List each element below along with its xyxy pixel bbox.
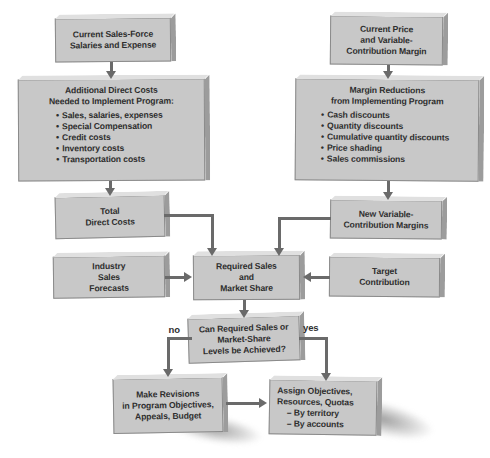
node-required-sales: Required Sales and Market Share (193, 255, 300, 301)
arrow-head (303, 272, 311, 282)
bullet-item: •Credit costs (56, 132, 204, 144)
node-margin-reductions: Margin Reductions from Implementing Prog… (295, 78, 480, 181)
node-can-required-sales: Can Required Sales or Market-Share Level… (187, 315, 300, 363)
arrow-stem (311, 276, 330, 279)
bullet-text: Transportation costs (62, 154, 145, 165)
arrow-head (274, 248, 284, 256)
bullet-icon: • (56, 154, 59, 165)
bullet-item: •Transportation costs (56, 154, 204, 166)
arrow-stem (164, 214, 214, 217)
node-label-line: Sales (98, 271, 120, 282)
node-assign-objectives: Assign Objectives, Resources, Quotas – B… (269, 379, 378, 436)
node-additional-direct-costs: Additional Direct Costs Needed to Implem… (18, 79, 206, 182)
bullet-text: Quantity discounts (327, 121, 403, 133)
bullet-list: •Cash discounts •Quantity discounts •Cum… (296, 109, 478, 165)
node-label-line: Required Sales (216, 261, 277, 272)
bullet-text: Cumulative quantity discounts (327, 132, 449, 144)
arrow-stem (211, 214, 214, 249)
node-label-line: Target (372, 266, 397, 277)
node-label-line: and (239, 272, 254, 283)
bullet-text: Cash discounts (327, 110, 390, 121)
bullet-icon: • (321, 132, 324, 143)
bullet-icon: • (56, 143, 59, 154)
arrow-head (383, 71, 393, 79)
node-current-price: Current Price and Variable- Contribution… (330, 16, 443, 66)
arrow-head (259, 398, 267, 408)
node-title-line: Additional Direct Costs (65, 85, 158, 96)
node-label-line: New Variable- (359, 208, 414, 220)
node-label-line: Forecasts (89, 282, 129, 293)
bullet-text: Sales commissions (327, 154, 405, 166)
edge-label-no: no (150, 324, 180, 335)
arrow-head (239, 310, 249, 318)
node-title-line: from Implementing Program (331, 96, 444, 108)
bullet-item: •Sales, salaries, expenses (56, 110, 204, 122)
arrow-head (184, 272, 192, 282)
node-label-line: Salaries and Expense (70, 40, 156, 52)
bullet-text: Price shading (327, 143, 382, 154)
bullet-icon: • (56, 121, 59, 132)
node-label-line: Total (100, 206, 120, 217)
arrow-head (106, 71, 116, 79)
node-label-line: Contribution Margin (346, 46, 426, 58)
bullet-text: Sales, salaries, expenses (62, 110, 163, 122)
bullet-icon: • (56, 132, 59, 143)
arrow-head (207, 248, 217, 256)
bullet-text: Inventory costs (62, 143, 124, 154)
node-label-line: Contribution Margins (343, 219, 428, 231)
node-label-line: Levels be Achieved? (203, 344, 286, 358)
bullet-item: •Special Compensation (56, 121, 204, 133)
node-target-contribution: Target Contribution (329, 257, 440, 298)
arrow-head (163, 369, 173, 377)
arrow-stem (167, 337, 170, 371)
node-label-line: Current Sales-Force (73, 29, 153, 41)
bullet-icon: • (321, 121, 324, 132)
arrow-head (105, 188, 115, 196)
node-make-revisions: Make Revisions in Program Objectives, Ap… (113, 377, 224, 434)
bullet-item: •Sales commissions (321, 154, 478, 166)
flowchart-canvas: Current Sales-Force Salaries and Expense… (0, 0, 490, 458)
node-label-line: – By accounts (277, 418, 344, 430)
node-label-line: Contribution (359, 277, 409, 288)
node-current-sales-force: Current Sales-Force Salaries and Expense (55, 17, 171, 62)
bullet-item: •Inventory costs (56, 143, 204, 155)
edge-label-yes: yes (303, 322, 319, 333)
arrow-head (383, 192, 393, 200)
node-label-line: Current Price (360, 24, 413, 35)
node-industry-sales-forecasts: Industry Sales Forecasts (53, 255, 166, 298)
bullet-icon: • (56, 110, 59, 121)
arrow-stem (226, 402, 260, 405)
node-label-line: Market Share (220, 283, 273, 294)
node-title-line: Needed to Implement Program: (49, 96, 174, 108)
arrow-stem (325, 337, 328, 375)
node-new-variable-margins: New Variable- Contribution Margins (330, 199, 442, 239)
bullet-icon: • (321, 154, 324, 165)
arrow-stem (165, 276, 185, 279)
arrow-stem (167, 337, 192, 340)
bullet-list: •Sales, salaries, expenses •Special Comp… (19, 110, 204, 166)
bullet-text: Credit costs (62, 132, 111, 143)
arrow-stem (278, 217, 331, 220)
bullet-text: Special Compensation (62, 121, 152, 132)
node-label-line: Appeals, Budget (135, 410, 201, 422)
arrow-head (321, 373, 331, 381)
bullet-icon: • (321, 143, 324, 154)
node-label-line: and Variable- (360, 35, 412, 46)
node-title-line: Margin Reductions (349, 85, 425, 97)
node-total-direct-costs: Total Direct Costs (55, 195, 166, 239)
arrow-stem (278, 217, 281, 249)
node-label-line: Industry (92, 260, 125, 271)
arrow-stem (299, 337, 328, 340)
bullet-icon: • (321, 110, 324, 121)
node-label-line: Direct Costs (85, 216, 135, 228)
